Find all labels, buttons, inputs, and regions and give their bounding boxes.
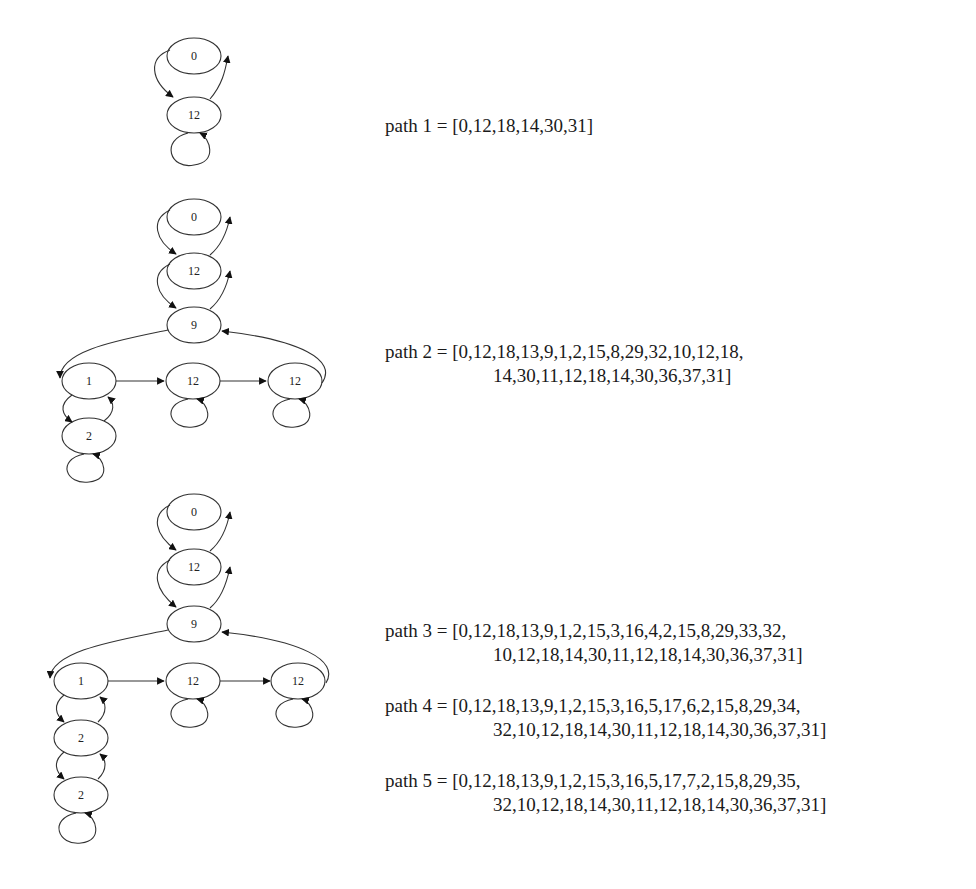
node-label: 9 <box>191 617 197 631</box>
path-label: path 5 = <box>385 770 452 791</box>
path-4-continuation: 32,10,12,18,14,30,11,12,18,14,30,36,37,3… <box>493 718 826 741</box>
path-sequence: [0,12,18,13,9,1,2,15,3,16,4,2,15,8,29,33… <box>452 620 786 641</box>
node-label: 12 <box>188 108 200 122</box>
node-label: 12 <box>188 560 200 574</box>
path-label: path 1 = <box>385 115 452 136</box>
graph-2 <box>60 199 326 482</box>
graph-3 <box>50 494 329 843</box>
path-4: path 4 = [0,12,18,13,9,1,2,15,3,16,5,17,… <box>385 694 801 717</box>
node-label: 0 <box>191 49 197 63</box>
node-label: 9 <box>191 318 197 332</box>
node-label: 1 <box>78 674 84 688</box>
path-label: path 2 = <box>385 341 452 362</box>
path-1: path 1 = [0,12,18,14,30,31] <box>385 114 593 137</box>
path-label: path 3 = <box>385 620 452 641</box>
node-label: 12 <box>289 374 301 388</box>
path-sequence: [0,12,18,14,30,31] <box>452 115 593 136</box>
path-3: path 3 = [0,12,18,13,9,1,2,15,3,16,4,2,1… <box>385 619 786 642</box>
path-5-continuation: 32,10,12,18,14,30,11,12,18,14,30,36,37,3… <box>493 793 826 816</box>
path-sequence: [0,12,18,13,9,1,2,15,3,16,5,17,6,2,15,8,… <box>452 695 800 716</box>
node-label: 12 <box>188 264 200 278</box>
path-3-continuation: 10,12,18,14,30,11,12,18,14,30,36,37,31] <box>493 643 803 666</box>
path-5: path 5 = [0,12,18,13,9,1,2,15,3,16,5,17,… <box>385 769 801 792</box>
node-label: 2 <box>78 731 84 745</box>
path-2-continuation: 14,30,11,12,18,14,30,36,37,31] <box>493 364 731 387</box>
node-label: 12 <box>187 374 199 388</box>
node-label: 2 <box>86 429 92 443</box>
node-label: 0 <box>191 505 197 519</box>
node-label: 12 <box>292 674 304 688</box>
path-sequence: [0,12,18,13,9,1,2,15,3,16,5,17,7,2,15,8,… <box>452 770 800 791</box>
node-label: 2 <box>78 788 84 802</box>
node-label: 1 <box>86 374 92 388</box>
path-2: path 2 = [0,12,18,13,9,1,2,15,8,29,32,10… <box>385 340 744 363</box>
path-sequence: [0,12,18,13,9,1,2,15,8,29,32,10,12,18, <box>452 341 743 362</box>
path-label: path 4 = <box>385 695 452 716</box>
node-label: 0 <box>191 210 197 224</box>
node-label: 12 <box>187 674 199 688</box>
